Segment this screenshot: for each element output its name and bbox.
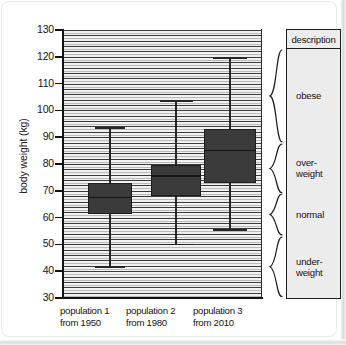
box-plot-chart: 13012011010090807060504030 body weight (… [0, 0, 346, 345]
whisker-cap-lower [95, 266, 124, 268]
iqr-box [204, 129, 256, 183]
y-tick-label-70: 70 [43, 185, 54, 196]
population-label-2: population 2from 1980 [126, 305, 175, 328]
y-axis-title: body weight (kg) [17, 101, 29, 211]
y-tick-label-130: 130 [37, 24, 54, 35]
brace-obese [268, 49, 285, 143]
box-plot-3[interactable] [204, 0, 256, 345]
population-label-line1: population 3 [193, 305, 242, 317]
y-tick-70 [55, 190, 63, 192]
y-tick-label-80: 80 [43, 158, 54, 169]
y-tick-label-120: 120 [37, 51, 54, 62]
description-header: description [286, 29, 341, 49]
brace-under-weight [268, 236, 285, 298]
band-label-under-weight: under-weight [296, 257, 323, 278]
band-label-line1: normal [296, 210, 324, 221]
whisker-cap-upper [160, 100, 193, 102]
iqr-box [151, 165, 201, 196]
population-label-line2: from 1980 [126, 317, 175, 329]
y-tick-50 [55, 244, 63, 246]
whisker-cap-lower [213, 229, 247, 231]
population-label-line2: from 2010 [193, 317, 242, 329]
y-tick-label-30: 30 [43, 292, 54, 303]
y-tick-label-110: 110 [38, 78, 54, 89]
band-label-line1: obese [296, 91, 321, 102]
median-line [151, 175, 201, 177]
y-tick-label-60: 60 [43, 212, 54, 223]
brace-over-weight [268, 143, 285, 194]
population-label-3: population 3from 2010 [193, 305, 242, 328]
box-plot-1[interactable] [88, 0, 132, 345]
band-label-over-weight: over-weight [296, 158, 323, 179]
median-line [88, 197, 132, 199]
band-label-obese: obese [296, 91, 321, 102]
population-label-line1: population 2 [126, 305, 175, 317]
brace-normal [268, 193, 285, 236]
y-tick-120 [55, 56, 63, 58]
band-label-line2: weight [296, 268, 323, 279]
screenshot-root: 13012011010090807060504030 body weight (… [0, 0, 346, 345]
y-tick-90 [55, 136, 63, 138]
median-line [204, 150, 256, 152]
band-label-normal: normal [296, 210, 324, 221]
y-tick-100 [55, 110, 63, 112]
y-tick-60 [55, 217, 63, 219]
population-label-line1: population 1 [60, 305, 109, 317]
box-plot-2[interactable] [151, 0, 201, 345]
y-tick-label-90: 90 [43, 131, 54, 142]
y-tick-130 [55, 29, 63, 31]
y-tick-label-50: 50 [43, 238, 54, 249]
y-tick-label-40: 40 [43, 265, 54, 276]
population-label-line2: from 1950 [60, 317, 109, 329]
y-tick-110 [55, 83, 63, 85]
whisker-cap-upper [95, 127, 124, 129]
whisker-cap-upper [213, 57, 247, 59]
band-label-line1: over- [296, 158, 323, 169]
band-label-line2: weight [296, 169, 323, 180]
y-tick-40 [55, 270, 63, 272]
plot-right-border [261, 29, 262, 299]
y-tick-30 [55, 297, 63, 299]
y-tick-label-100: 100 [37, 104, 54, 115]
whisker-cap-lower [160, 244, 193, 246]
y-tick-80 [55, 163, 63, 165]
x-axis-category-labels: population 1from 1950population 2from 19… [63, 305, 268, 335]
population-label-1: population 1from 1950 [60, 305, 109, 328]
